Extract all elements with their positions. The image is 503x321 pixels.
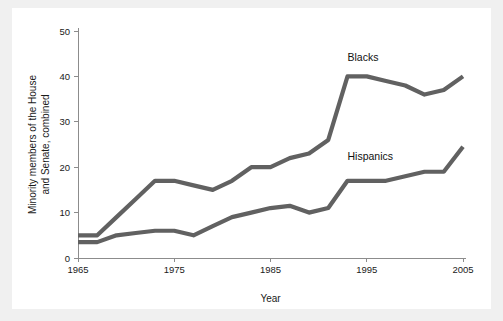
y-tick-label: 50: [59, 26, 70, 37]
x-tick-label: 1975: [164, 264, 185, 275]
x-tick-label: 1965: [67, 264, 88, 275]
y-tick-label: 10: [59, 207, 70, 218]
y-tick-label: 20: [59, 162, 70, 173]
y-axis-title-line1: Minority members of the House: [27, 75, 38, 214]
series-line-blacks: [78, 76, 463, 235]
chart-panel: 0102030405019651975198519952005YearMinor…: [12, 8, 491, 309]
x-tick-label: 1985: [260, 264, 281, 275]
x-axis-title: Year: [260, 293, 281, 304]
x-tick-label: 2005: [452, 264, 473, 275]
y-tick-label: 30: [59, 116, 70, 127]
series-label-hispanics: Hispanics: [348, 150, 394, 162]
series-label-blacks: Blacks: [348, 51, 379, 63]
y-tick-label: 0: [65, 253, 70, 264]
y-tick-label: 40: [59, 71, 70, 82]
line-chart: 0102030405019651975198519952005YearMinor…: [12, 8, 491, 309]
series-line-hispanics: [78, 147, 463, 242]
y-axis-title-line2: and Senate, combined: [40, 94, 51, 194]
figure-root: 0102030405019651975198519952005YearMinor…: [0, 0, 503, 321]
x-tick-label: 1995: [356, 264, 377, 275]
